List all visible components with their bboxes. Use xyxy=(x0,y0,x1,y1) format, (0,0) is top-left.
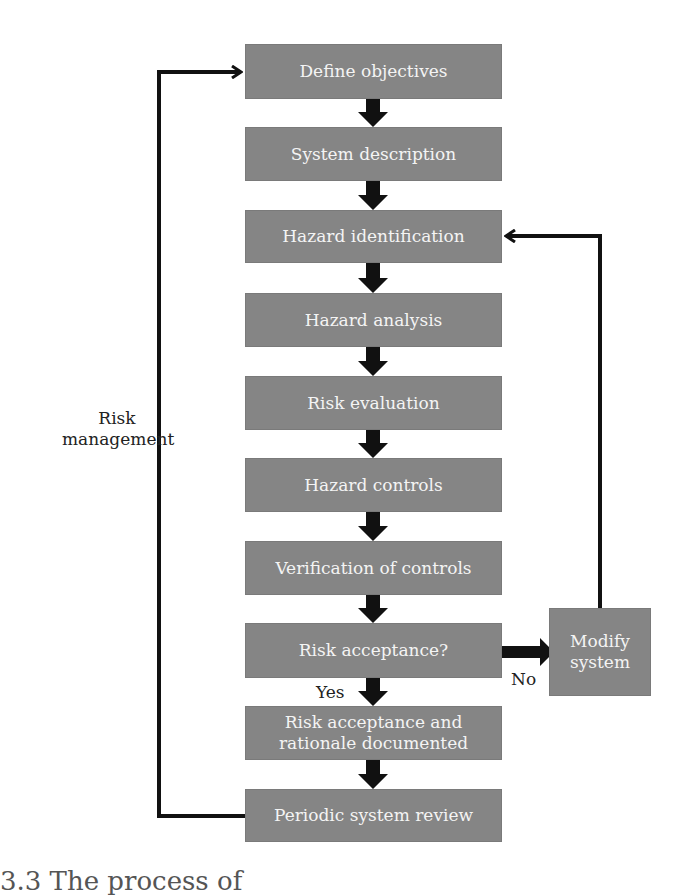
down-arrow-icon xyxy=(358,347,388,376)
down-arrows xyxy=(358,99,388,789)
down-arrow-icon xyxy=(358,760,388,789)
risk-management-label: Risk management xyxy=(62,408,172,450)
down-arrow-icon xyxy=(358,512,388,541)
modify-label-line-1: Modify xyxy=(570,631,630,652)
step-hazard-analysis: Hazard analysis xyxy=(245,293,502,347)
down-arrow-icon xyxy=(358,595,388,623)
right-arrow-icon xyxy=(502,638,554,666)
down-arrow-icon xyxy=(358,181,388,210)
step-label-line-1: Risk acceptance and xyxy=(285,712,463,733)
figure-caption: 3.3 The process of xyxy=(0,866,242,896)
no-label: No xyxy=(511,669,536,690)
step-verification-of-controls: Verification of controls xyxy=(245,541,502,595)
feedback-line xyxy=(506,236,600,608)
step-hazard-controls: Hazard controls xyxy=(245,458,502,512)
step-label-line-2: rationale documented xyxy=(279,733,468,754)
step-system-description: System description xyxy=(245,127,502,181)
yes-label: Yes xyxy=(316,682,345,703)
down-arrow-icon xyxy=(358,430,388,458)
modify-label-line-2: system xyxy=(570,652,630,673)
step-label: Verification of controls xyxy=(275,558,471,579)
step-risk-acceptance-documented: Risk acceptance and rationale documented xyxy=(245,706,502,760)
step-periodic-system-review: Periodic system review xyxy=(245,789,502,842)
step-risk-acceptance-decision: Risk acceptance? xyxy=(245,623,502,678)
step-label: Hazard identification xyxy=(282,226,465,247)
step-label: Define objectives xyxy=(299,61,447,82)
step-label: System description xyxy=(291,144,456,165)
down-arrow-icon xyxy=(358,678,388,706)
step-label: Periodic system review xyxy=(274,805,473,826)
step-label: Hazard controls xyxy=(304,475,443,496)
loop-label-line-2: management xyxy=(62,429,172,450)
step-label: Risk evaluation xyxy=(307,393,439,414)
modify-system-box: Modify system xyxy=(549,608,651,696)
down-arrow-icon xyxy=(358,99,388,127)
step-hazard-identification: Hazard identification xyxy=(245,210,502,263)
loop-label-line-1: Risk xyxy=(62,408,172,429)
down-arrow-icon xyxy=(358,263,388,293)
step-label: Risk acceptance? xyxy=(299,640,448,661)
step-label: Hazard analysis xyxy=(305,310,443,331)
step-risk-evaluation: Risk evaluation xyxy=(245,376,502,430)
step-define-objectives: Define objectives xyxy=(245,44,502,99)
